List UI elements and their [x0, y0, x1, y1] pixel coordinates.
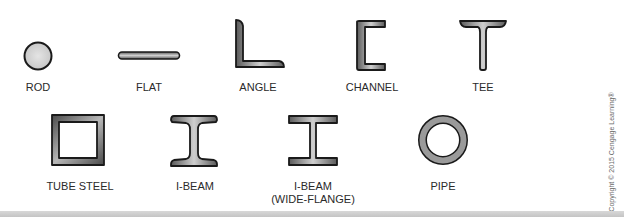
pipe-label: PIPE	[430, 180, 455, 193]
channel-shape-icon	[353, 18, 389, 74]
angle-shape-icon	[233, 18, 287, 72]
tee-shape-icon	[458, 18, 508, 74]
copyright-notice: Copyright © 2015 Cengage Learning®	[608, 92, 615, 211]
flat-label: FLAT	[136, 81, 162, 94]
i-beam-wide-flange-shape-icon	[285, 113, 341, 169]
rod-shape-icon	[22, 40, 54, 72]
i-beam-shape-icon	[168, 113, 220, 169]
channel-label: CHANNEL	[346, 81, 399, 94]
tee-label: TEE	[472, 81, 493, 94]
tube-steel-shape-icon	[49, 113, 107, 167]
i-beam-wide-flange-label-line2: (WIDE-FLANGE)	[271, 193, 355, 206]
angle-label: ANGLE	[239, 81, 276, 94]
i-beam-wide-flange-label-line1: I-BEAM	[271, 180, 355, 193]
i-beam-label: I-BEAM	[176, 180, 214, 193]
pipe-shape-icon	[417, 113, 469, 167]
flat-shape-icon	[117, 50, 181, 62]
tube-steel-label: TUBE STEEL	[46, 180, 113, 193]
i-beam-wide-flange-label: I-BEAM (WIDE-FLANGE)	[271, 180, 355, 206]
rod-label: ROD	[26, 81, 50, 94]
bottom-divider-bar	[0, 211, 624, 217]
